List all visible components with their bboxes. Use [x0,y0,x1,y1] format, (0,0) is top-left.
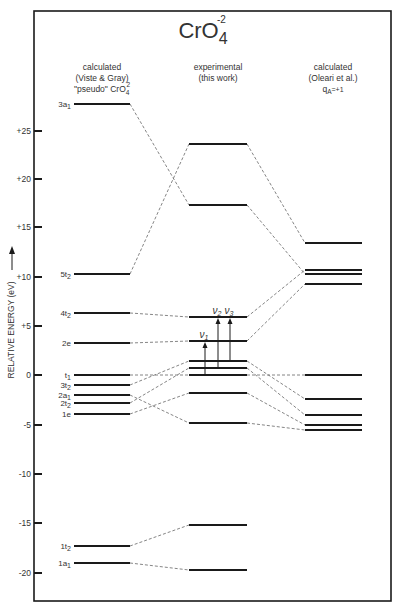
correlation-line [247,423,305,430]
axis-tick-label: +25 [17,126,32,136]
correlation-line [247,284,305,341]
column-header-right-line: qA=+1 [322,84,343,95]
column-header-right-line: (Oleari et al.) [308,73,357,83]
column-header-right-line: calculated [314,62,353,72]
arrow-head-icon [203,342,208,348]
correlation-line [130,144,189,274]
correlation-line [130,525,189,546]
correlation-line [247,368,305,415]
level-label: 5t2 [60,270,71,280]
column-headers: calculated(Viste & Gray)"pseudo" CrO42ex… [74,62,358,96]
column-header-middle-line: experimental [194,62,243,72]
level-label: 3a1 [58,100,71,110]
correlation-line [130,341,189,343]
column-header-left-line: calculated [83,62,122,72]
arrow-head-icon [228,318,233,324]
axis-tick-label: -20 [19,568,32,578]
correlation-line [247,205,305,274]
correlation-line [130,313,189,317]
axis-tick-label: +5 [21,321,31,331]
transition-label: ν3 [225,305,234,317]
level-label: 1t2 [60,542,71,552]
correlation-line [130,104,189,205]
axis-tick-label: 0 [26,370,31,380]
transition-label: ν2 [213,305,222,317]
arrow-head-icon [216,318,221,324]
transition-label: ν1 [200,329,209,341]
column-header-middle-line: (this work) [198,73,237,83]
correlation-line [247,270,305,317]
level-label: 3t2 [60,381,71,391]
energy-level-diagram: CrO4 -2 calculated(Viste & Gray)"pseudo"… [0,0,397,605]
axis-tick-label: +15 [17,222,32,232]
energy-axis: +25+20+15+10+50-5-10-15-20RELATIVE ENERG… [6,126,42,578]
axis-tick-label: -5 [23,420,31,430]
level-label: 1a1 [58,559,71,569]
correlation-line [130,361,189,385]
column-header-left-line: (Viste & Gray) [75,73,128,83]
correlation-line [247,144,305,243]
correlation-line [130,563,189,570]
correlation-line [130,395,189,423]
level-label: 1e [62,410,71,419]
axis-tick-label: +10 [17,272,32,282]
axis-label: RELATIVE ENERGY (eV) [6,281,16,378]
level-label: 2e [62,339,71,348]
level-label: 4t2 [60,309,71,319]
axis-tick-label: -15 [19,518,32,528]
level-label: t1 [65,371,71,381]
correlation-line [130,393,189,414]
title-charge: -2 [217,14,226,25]
column-header-left-line: "pseudo" CrO42 [74,81,131,96]
energy-levels: 3a15t24t22et13t22a12t21e1t21a1 [58,100,362,570]
correlation-line [247,361,305,399]
correlation-line [247,393,305,425]
axis-tick-label: +20 [17,174,32,184]
axis-tick-label: -10 [19,469,32,479]
arrow-up-icon [9,246,15,254]
